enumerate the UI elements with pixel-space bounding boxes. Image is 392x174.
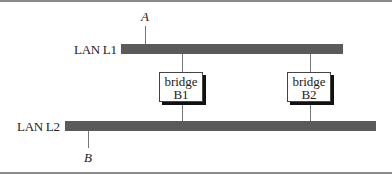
lan-l2-label: LAN L2 [17,120,60,133]
bridge-b2-line2: B2 [288,88,330,101]
host-b-label: B [84,151,92,164]
bridge-b2: bridge B2 [287,72,331,102]
bridge-b1: bridge B1 [159,72,203,102]
lan-l1-bar [121,44,343,54]
frame-bottom-border [0,172,392,174]
host-a-label: A [141,10,149,23]
bridge-b1-line2: B1 [160,88,202,101]
frame-top-border [0,0,392,2]
host-b-connector [88,131,89,148]
lan-l2-bar [65,121,376,131]
lan-l1-label: LAN L1 [74,43,117,56]
host-a-connector [145,26,146,44]
